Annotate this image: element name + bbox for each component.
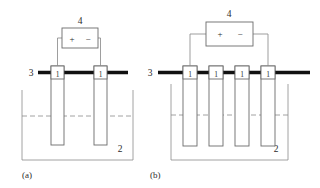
power-supply-label-b: 4	[227, 9, 232, 19]
power-supply-label-a: 4	[78, 16, 83, 26]
busbar-label-b: 3	[148, 68, 153, 78]
wire-b-positive	[190, 34, 206, 66]
panel-caption-a: (a)	[22, 170, 32, 180]
power-supply-b	[206, 22, 253, 46]
electrode-label-b-4: 1	[266, 70, 270, 79]
electrolysis-cell-diagram: 2 1 1 3 + − 4 (a)	[0, 0, 320, 188]
tank-label-a: 2	[118, 144, 123, 154]
panel-caption-b: (b)	[150, 170, 161, 180]
electrode-label-b-1: 1	[188, 70, 192, 79]
power-supply-a	[62, 28, 98, 48]
wire-a-positive	[58, 38, 63, 66]
busbar-label-a: 3	[29, 68, 34, 78]
electrode-label-a-1: 1	[56, 70, 60, 79]
power-supply-plus-a: +	[69, 34, 74, 44]
wire-b-negative	[253, 34, 268, 66]
power-supply-minus-b: −	[237, 29, 242, 39]
power-supply-plus-b: +	[217, 29, 222, 39]
electrode-label-a-2: 1	[99, 70, 103, 79]
power-supply-minus-a: −	[85, 34, 90, 44]
electrode-label-b-3: 1	[240, 70, 244, 79]
electrode-label-b-2: 1	[214, 70, 218, 79]
tank-outline-a	[22, 90, 133, 160]
panel-b: 2 1 1 1 1 3 + −	[148, 9, 310, 180]
figure-container: 2 1 1 3 + − 4 (a)	[0, 0, 320, 188]
panel-a: 2 1 1 3 + − 4 (a)	[22, 16, 133, 180]
